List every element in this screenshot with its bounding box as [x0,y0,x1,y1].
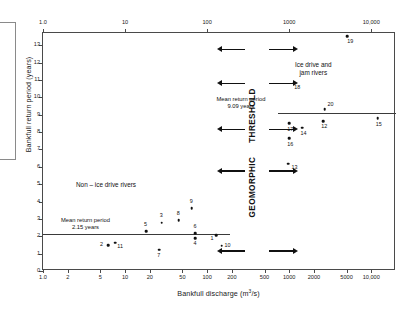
non-ice-drive-mean-line [43,234,230,235]
threshold-arrow-left [221,170,245,171]
x-axis-tick-label-top: 1.0 [39,20,47,26]
ice-drive-region-label: Ice drive andjam rivers [295,61,332,78]
cropped-frame-artifact [0,22,16,160]
x-axis-tick-bottom [289,269,290,273]
geomorphic-label-vertical: GEOMORPHIC [248,158,257,218]
x-axis-tick-label-bottom: 1000 [283,275,295,281]
ice-drive-mean-line [278,113,396,114]
x-axis-tick-bottom [347,269,348,273]
x-axis-tick-label-top: 1000 [283,20,295,26]
x-axis-tick-top [43,29,44,33]
ice-drive-mean-caption-line1: Mean return period [216,96,265,102]
data-point [194,232,197,235]
x-axis-tick-bottom [207,269,208,273]
x-axis-title-tail: /s) [251,289,259,298]
x-axis-tick-bottom [182,269,183,273]
data-point-label: 12 [321,124,327,129]
x-axis-tick-bottom [125,269,126,273]
x-axis-tick-label-top: 100 [202,20,211,26]
x-axis-tick-label-bottom: 200 [227,275,236,281]
data-point-label: 14 [300,131,306,136]
non-ice-drive-mean-caption: Mean return period2.15 years [61,217,110,231]
data-point-label: 11 [117,244,123,249]
data-point-label: 6 [193,224,196,229]
y-axis-tick-label: 8 [30,129,40,135]
y-axis-tick-label: 6 [30,164,40,170]
y-axis-tick-label: 10 [30,94,40,100]
y-axis-tick-label: 0 [30,268,40,274]
data-point [215,234,218,237]
x-axis-tick-label-bottom: 2 [66,275,69,281]
y-axis-tick-label: 4 [30,199,40,205]
non-ice-drive-mean-caption-line1: Mean return period [61,217,110,223]
threshold-arrow-left [221,250,245,251]
y-axis-tick-label: 5 [30,181,40,187]
y-axis-title: Bankfull return period (years) [24,25,33,185]
x-axis-tick-top [289,29,290,33]
x-axis-tick-bottom [265,269,266,273]
ice-drive-mean-caption: Mean return period9.09 years [216,96,265,110]
x-axis-title-base: Bankfull discharge (m [177,289,248,298]
data-point [288,122,291,125]
x-axis-tick-bottom [150,269,151,273]
non-ice-drive-mean-caption-line2: 2.15 years [72,224,99,230]
y-axis-tick-label: 13 [30,42,40,48]
y-axis-tick-label: 9 [30,112,40,118]
data-point-label: 5 [144,222,147,227]
threshold-arrow-right [269,170,293,171]
data-point-label: 1 [210,236,213,241]
data-point [114,242,117,245]
plot-area: 1.02510205010020050010002000500010,0001.… [42,32,395,270]
data-point [194,237,197,240]
data-point [220,245,223,248]
data-point-label: 17 [287,127,293,132]
x-axis-tick-label-bottom: 500 [260,275,269,281]
x-axis-tick-bottom [314,269,315,273]
x-axis-tick-bottom [232,269,233,273]
non-ice-drive-region-label: Non – ice drive rivers [76,181,136,189]
data-point-label: 7 [157,253,160,258]
data-point [107,244,110,247]
data-point-label: 4 [193,241,196,246]
threshold-arrow-right [269,250,293,251]
threshold-arrow-right [269,83,293,84]
x-axis-tick-bottom [43,269,44,273]
threshold-arrow-left [221,83,245,84]
y-axis-tick-label: 2 [30,233,40,239]
y-axis-tick-label: 1 [30,251,40,257]
x-axis-tick-top [371,29,372,33]
ice-drive-region-label-line2: jam rivers [299,69,327,76]
threshold-label-vertical: THRESHOLD [248,86,257,146]
data-point-label: 18 [294,85,300,90]
data-point [158,249,161,252]
y-axis-tick-label: 3 [30,216,40,222]
x-axis-tick-label-bottom: 5 [99,275,102,281]
data-point-label: 10 [225,243,231,248]
data-point-label: 8 [177,211,180,216]
y-axis-tick-label: 11 [30,77,40,83]
data-point-label: 20 [328,102,334,107]
data-point [177,219,180,222]
x-axis-tick-label-bottom: 100 [202,275,211,281]
y-axis-tick-label: 12 [30,60,40,66]
data-point [160,221,163,224]
x-axis-tick-bottom [68,269,69,273]
data-point-label: 16 [287,142,293,147]
x-axis-tick-bottom [371,269,372,273]
ice-drive-region-label-line1: Ice drive and [295,61,332,68]
data-point-label: 15 [376,122,382,127]
x-axis-tick-label-top: 10,000 [363,20,380,26]
data-point [190,207,193,210]
data-point-label: 9 [190,199,193,204]
x-axis-tick-label-bottom: 10,000 [363,275,380,281]
data-point [288,137,291,140]
data-point [287,162,290,165]
threshold-arrow-right [269,49,293,50]
x-axis-tick-label-bottom: 50 [179,275,185,281]
data-point [145,230,148,233]
x-axis-tick-bottom [100,269,101,273]
x-axis-tick-label-bottom: 20 [147,275,153,281]
x-axis-tick-label-bottom: 1.0 [39,275,47,281]
data-point-label: 2 [100,242,103,247]
data-point [376,117,379,120]
